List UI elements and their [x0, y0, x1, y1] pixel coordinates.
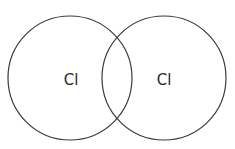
- right-atom-label: Cl: [157, 71, 172, 89]
- cl2-bond-diagram: Cl Cl: [0, 0, 235, 149]
- left-atom-label: Cl: [64, 71, 79, 89]
